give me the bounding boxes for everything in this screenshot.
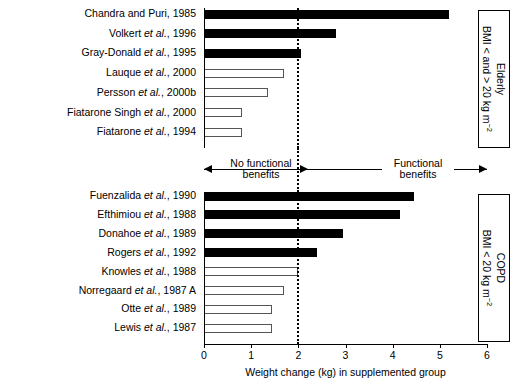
label-pre: Efthimiou (97, 208, 144, 220)
category-label-copd-7: Lewis et al., 1987 (114, 322, 196, 333)
category-label-elderly-0: Chandra and Puri, 1985 (85, 8, 197, 19)
label-post: , 1989 (167, 227, 196, 239)
label-pre: Knowles (101, 265, 144, 277)
label-etal: et al. (144, 106, 167, 118)
label-etal: et al. (138, 86, 161, 98)
bar-elderly-3 (204, 69, 284, 78)
group-box-copd-label: COPD BMI < 20 kg m−2 (481, 230, 508, 307)
category-label-copd-3: Rogers et al., 1992 (107, 247, 196, 258)
group-box-copd: COPD BMI < 20 kg m−2 (478, 194, 510, 342)
x-tick-6 (487, 344, 488, 348)
label-pre: Fiatarone Singh (67, 106, 144, 118)
label-post: , 1988 (167, 265, 196, 277)
bar-copd-0 (204, 192, 414, 201)
functional-benefits-label: Functional benefits (382, 158, 454, 180)
category-label-copd-4: Knowles et al., 1988 (101, 266, 196, 277)
bar-elderly-4 (204, 88, 268, 97)
no-functional-benefits-label: No functional benefits (218, 158, 304, 180)
reference-line-2kg-0 (297, 8, 299, 148)
bar-copd-1 (204, 210, 400, 219)
bar-copd-5 (204, 286, 284, 295)
category-label-copd-2: Donahoe et al., 1989 (98, 228, 196, 239)
benefit-threshold-annotation: No functional benefits Functional benefi… (204, 150, 487, 188)
bar-elderly-5 (204, 108, 242, 117)
category-label-copd-6: Otte et al., 1989 (121, 303, 196, 314)
label-etal: et al. (144, 46, 167, 58)
label-post: , 2000 (167, 106, 196, 118)
y-axis-elderly (204, 8, 205, 148)
x-tick-0 (204, 344, 205, 348)
label-etal: et al. (144, 246, 167, 258)
label-etal: et al. (144, 66, 167, 78)
x-tick-label-3: 3 (343, 349, 349, 361)
bar-copd-3 (204, 248, 317, 257)
label-pre: Gray-Donald (82, 46, 144, 58)
x-tick-label-5: 5 (437, 349, 443, 361)
label-pre: Lewis (114, 321, 144, 333)
label-post: , 1990 (167, 189, 196, 201)
label-pre: Otte (121, 302, 144, 314)
bar-copd-4 (204, 267, 298, 276)
category-label-elderly-6: Fiatarone et al., 1994 (97, 126, 196, 137)
label-pre: Fiatarone (97, 125, 144, 137)
x-tick-4 (393, 344, 394, 348)
label-etal: et al. (144, 265, 167, 277)
x-tick-5 (440, 344, 441, 348)
elderly-line2: BMI < and > 20 kg m (481, 26, 493, 123)
label-post: , 2000b (161, 86, 196, 98)
label-post: , 1994 (167, 125, 196, 137)
x-tick-label-0: 0 (201, 349, 207, 361)
label-pre: Fuenzalida (90, 189, 144, 201)
bar-elderly-2 (204, 49, 301, 58)
label-pre: Volkert (109, 27, 144, 39)
label-pre: Persson (97, 86, 138, 98)
x-tick-label-6: 6 (484, 349, 490, 361)
label-post: , 1987 A (157, 284, 196, 296)
copd-line2: BMI < 20 kg m (481, 230, 493, 298)
threshold-arrow-icon (300, 165, 308, 173)
category-label-column: Chandra and Puri, 1985Volkert et al., 19… (0, 0, 200, 392)
x-tick-2 (298, 344, 299, 348)
category-label-elderly-4: Persson et al., 2000b (97, 87, 196, 98)
x-tick-3 (346, 344, 347, 348)
category-label-elderly-5: Fiatarone Singh et al., 2000 (67, 107, 196, 118)
label-etal: et al. (144, 321, 167, 333)
bar-elderly-0 (204, 10, 449, 19)
plot-area (204, 0, 487, 392)
category-label-elderly-2: Gray-Donald et al., 1995 (82, 47, 196, 58)
label-post: , 1992 (167, 246, 196, 258)
bar-copd-6 (204, 305, 272, 314)
category-label-copd-5: Norregaard et al., 1987 A (79, 285, 196, 296)
bar-elderly-1 (204, 29, 336, 38)
reference-line-2kg-1 (297, 192, 299, 344)
elderly-exponent: −2 (485, 123, 494, 132)
weight-change-bar-chart: Chandra and Puri, 1985Volkert et al., 19… (0, 0, 514, 392)
right-arrow-icon (479, 165, 487, 173)
label-etal: et al. (144, 27, 167, 39)
no-benefits-line2: benefits (243, 168, 280, 180)
x-axis-title: Weight change (kg) in supplemented group (204, 366, 487, 378)
label-etal: et al. (144, 302, 167, 314)
group-box-elderly-label: Elderly BMI < and > 20 kg m−2 (481, 26, 508, 132)
label-etal: et al. (135, 284, 158, 296)
bar-copd-7 (204, 324, 272, 333)
label-post: , 1987 (167, 321, 196, 333)
label-pre: Norregaard (79, 284, 135, 296)
label-post: , 1989 (167, 302, 196, 314)
label-etal: et al. (144, 227, 167, 239)
category-label-copd-0: Fuenzalida et al., 1990 (90, 190, 196, 201)
x-tick-label-1: 1 (248, 349, 254, 361)
benefits-line2: benefits (400, 168, 437, 180)
left-arrow-icon (204, 165, 212, 173)
label-post: , 1996 (167, 27, 196, 39)
label-post: , 2000 (167, 66, 196, 78)
label-pre: Donahoe (98, 227, 144, 239)
x-tick-1 (251, 344, 252, 348)
copd-exponent: −2 (485, 298, 494, 307)
group-box-elderly: Elderly BMI < and > 20 kg m−2 (478, 10, 510, 148)
category-label-elderly-1: Volkert et al., 1996 (109, 28, 196, 39)
label-pre: Rogers (107, 246, 144, 258)
category-label-copd-1: Efthimiou et al., 1988 (97, 209, 196, 220)
label-post: , 1988 (167, 208, 196, 220)
label-etal: et al. (144, 189, 167, 201)
